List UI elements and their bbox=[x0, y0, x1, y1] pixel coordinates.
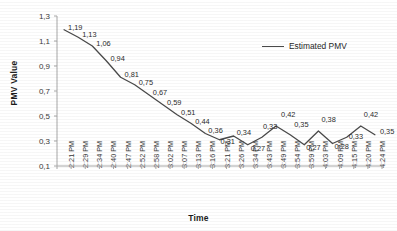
legend-line-marker bbox=[262, 46, 284, 47]
data-point-label: 0,34 bbox=[237, 129, 251, 137]
data-point-label: 0,75 bbox=[139, 79, 153, 87]
data-point-label: 0,42 bbox=[364, 111, 378, 119]
legend-label-estimated-pmv: Estimated PMV bbox=[289, 41, 347, 51]
data-point-label: 1,19 bbox=[68, 24, 82, 32]
data-point-label: 0,81 bbox=[125, 71, 139, 79]
data-point-label: 0,35 bbox=[294, 121, 308, 129]
data-point-label: 0,94 bbox=[110, 55, 124, 63]
data-point-label: 0,42 bbox=[281, 111, 295, 119]
data-point-label: 0,51 bbox=[181, 109, 195, 117]
data-point-label: 0,36 bbox=[208, 127, 222, 135]
data-point-label: 0,59 bbox=[167, 99, 181, 107]
data-point-label: 0,35 bbox=[380, 128, 394, 136]
data-point-label: 0,38 bbox=[321, 116, 335, 124]
data-point-label: 1,13 bbox=[82, 31, 96, 39]
data-point-label: 1,06 bbox=[96, 40, 110, 48]
data-point-label: 0,31 bbox=[221, 138, 235, 146]
data-point-label: 0,28 bbox=[335, 143, 349, 151]
data-point-label: 0,27 bbox=[251, 145, 265, 153]
chart-legend: Estimated PMV bbox=[262, 41, 347, 51]
data-point-label: 0,67 bbox=[153, 89, 167, 97]
data-point-label: 0,33 bbox=[349, 133, 363, 141]
pmv-line-chart: PMV Value Time 1,31,10,90,70,50,30,1 2:2… bbox=[0, 0, 397, 231]
plot-area bbox=[0, 0, 397, 231]
data-point-label: 0,27 bbox=[306, 144, 320, 152]
data-point-label: 0,33 bbox=[263, 123, 277, 131]
data-point-label: 0,44 bbox=[195, 118, 209, 126]
